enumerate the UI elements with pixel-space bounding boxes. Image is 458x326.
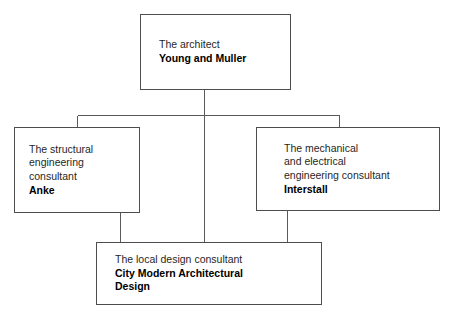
node-structural-name: Anke (29, 184, 133, 198)
node-local-text: The local design consultant City Modern … (97, 253, 321, 294)
node-mechanical-role: The mechanical and electrical engineerin… (284, 142, 433, 183)
node-structural-role: The structural engineering consultant (29, 143, 133, 184)
node-local-role: The local design consultant (115, 253, 315, 267)
node-local-name: City Modern Architectural Design (115, 267, 315, 294)
organization-chart: The architect Young and Muller The struc… (0, 0, 458, 326)
node-architect-name: Young and Muller (159, 52, 284, 66)
node-architect-text: The architect Young and Muller (141, 38, 290, 65)
node-architect-role: The architect (159, 38, 284, 52)
node-mechanical-text: The mechanical and electrical engineerin… (257, 142, 439, 196)
node-structural-consultant: The structural engineering consultant An… (14, 127, 140, 213)
node-local-design-consultant: The local design consultant City Modern … (96, 242, 322, 305)
node-mechanical-name: Interstall (284, 183, 433, 197)
node-architect: The architect Young and Muller (140, 14, 291, 90)
node-structural-text: The structural engineering consultant An… (15, 143, 139, 197)
node-mechanical-consultant: The mechanical and electrical engineerin… (256, 127, 440, 211)
